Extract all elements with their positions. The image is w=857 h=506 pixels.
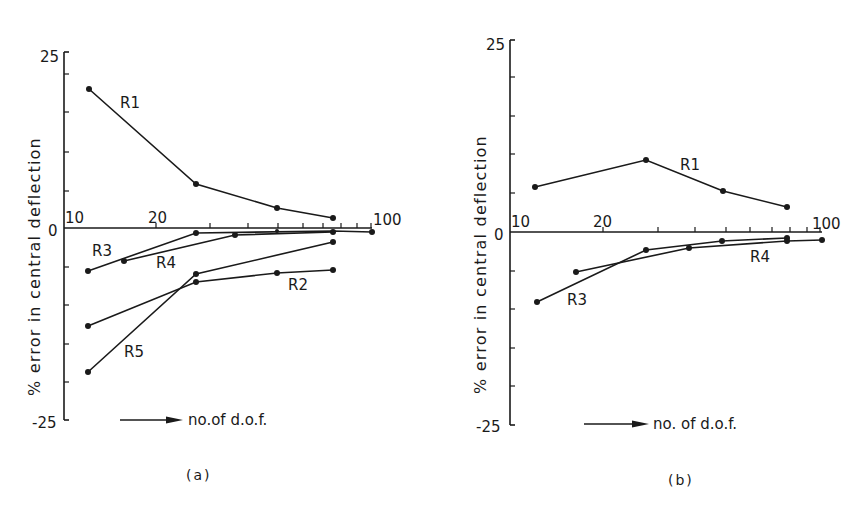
series-label-r5-a: R5 bbox=[124, 343, 144, 361]
x-tick-label-20-b: 20 bbox=[593, 213, 612, 231]
series-r1-b bbox=[535, 160, 787, 207]
x-tick-label-10-b: 10 bbox=[511, 213, 530, 231]
x-axis-arrow-b bbox=[584, 421, 649, 428]
panel-a: 25 0 -25 10 20 100 % error in central de… bbox=[25, 48, 402, 483]
y-tick-label-bottom-b: -25 bbox=[476, 418, 501, 436]
x-axis-arrow-a bbox=[120, 417, 183, 424]
data-points-a bbox=[85, 86, 375, 375]
y-tick-label-top-b: 25 bbox=[486, 36, 505, 54]
series-r3-a bbox=[88, 231, 372, 271]
series-label-r4-a: R4 bbox=[156, 254, 176, 272]
y-tick-label-zero-b: 0 bbox=[494, 226, 504, 244]
x-tick-label-20-a: 20 bbox=[148, 209, 167, 227]
series-label-r1-b: R1 bbox=[680, 156, 700, 174]
series-label-r3-a: R3 bbox=[92, 242, 112, 260]
y-tick-label-zero-a: 0 bbox=[48, 222, 58, 240]
y-tick-label-top-a: 25 bbox=[40, 48, 59, 66]
series-label-r2-a: R2 bbox=[288, 276, 308, 294]
panel-caption-b: (b) bbox=[668, 472, 694, 488]
series-label-r4-b: R4 bbox=[750, 248, 770, 266]
x-tick-label-10-a: 10 bbox=[65, 209, 84, 227]
series-label-r3-b: R3 bbox=[567, 291, 587, 309]
x-tick-label-100-b: 100 bbox=[812, 215, 841, 233]
series-r4-b bbox=[576, 240, 822, 272]
y-axis-title-a: % error in central deflection bbox=[25, 137, 44, 396]
panel-b: 25 0 -25 10 20 100 % error in central de… bbox=[471, 36, 841, 488]
y-tick-label-bottom-a: -25 bbox=[32, 414, 57, 432]
x-axis-title-a: no.of d.o.f. bbox=[188, 411, 267, 429]
y-axis-title-b: % error in central deflection bbox=[471, 135, 490, 394]
x-tick-label-100-a: 100 bbox=[373, 211, 402, 229]
panel-caption-a: (a) bbox=[186, 467, 212, 483]
series-label-r1-a: R1 bbox=[120, 94, 140, 112]
x-axis-title-b: no. of d.o.f. bbox=[653, 415, 737, 433]
figure-canvas: 25 0 -25 10 20 100 % error in central de… bbox=[0, 0, 857, 506]
